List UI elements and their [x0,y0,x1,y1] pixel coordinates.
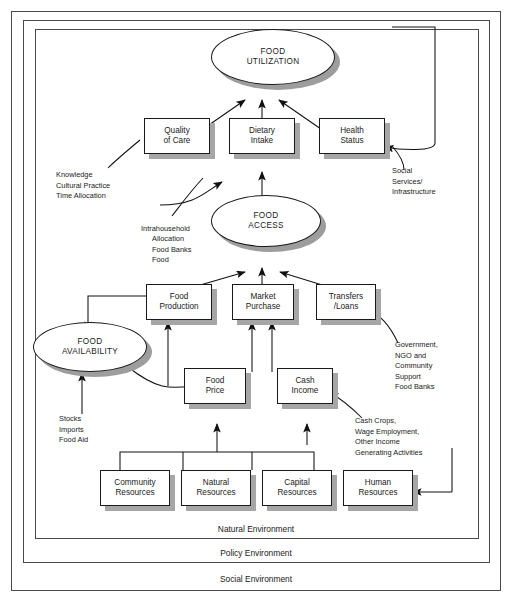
label-natural-environment: Natural Environment [0,524,512,534]
node-food-availability[interactable]: FOOD AVAILABILITY [33,322,147,372]
annotation-cash-crops: Cash Crops, Wage Employment, Other Incom… [355,416,422,458]
annotation-intrahousehold-items: Allocation Food Banks Food [152,234,191,266]
annotation-intrahousehold-heading: Intrahousehold [141,224,190,235]
node-market-purchase[interactable]: Market Purchase [232,284,294,320]
annotation-stocks: Stocks Imports Food Aid [59,414,88,446]
label-social-environment: Social Environment [0,574,512,584]
node-community-resources[interactable]: Community Resources [100,470,170,506]
node-health-status[interactable]: Health Status [319,118,385,154]
annotation-government-ngo: Government, NGO and Community Support Fo… [395,340,438,393]
node-food-access[interactable]: FOOD ACCESS [211,195,321,247]
label-policy-environment: Policy Environment [0,548,512,558]
dietary-intake-label: Dietary Intake [247,126,277,146]
natural-resources-label: Natural Resources [194,478,237,498]
food-production-label: Food Production [157,292,200,312]
node-transfers-loans[interactable]: Transfers /Loans [316,284,376,320]
community-resources-label: Community Resources [112,478,157,498]
food-access-label: FOOD ACCESS [248,211,283,232]
node-dietary-intake[interactable]: Dietary Intake [229,118,295,154]
capital-resources-label: Capital Resources [275,478,318,498]
food-price-label: Food Price [204,376,227,396]
cash-income-label: Cash Income [290,376,321,396]
node-capital-resources[interactable]: Capital Resources [262,470,332,506]
annotation-knowledge: Knowledge Cultural Practice Time Allocat… [56,170,110,202]
human-resources-label: Human Resources [356,478,399,498]
node-food-production[interactable]: Food Production [146,284,212,320]
node-natural-resources[interactable]: Natural Resources [181,470,251,506]
market-purchase-label: Market Purchase [244,292,283,312]
node-food-price[interactable]: Food Price [184,368,246,404]
quality-of-care-label: Quality of Care [162,126,193,146]
node-quality-of-care[interactable]: Quality of Care [144,118,210,154]
health-status-label: Health Status [338,126,366,146]
transfers-loans-label: Transfers /Loans [327,292,365,312]
node-human-resources[interactable]: Human Resources [343,470,413,506]
food-utilization-label: FOOD UTILIZATION [247,47,300,68]
diagram-canvas: FOOD UTILIZATION FOOD ACCESS FOOD AVAILA… [0,0,512,603]
annotation-social-services: Social Services/ Infrastructure [392,166,436,198]
node-food-utilization[interactable]: FOOD UTILIZATION [211,29,335,85]
food-availability-label: FOOD AVAILABILITY [62,337,118,358]
node-cash-income[interactable]: Cash Income [277,368,333,404]
